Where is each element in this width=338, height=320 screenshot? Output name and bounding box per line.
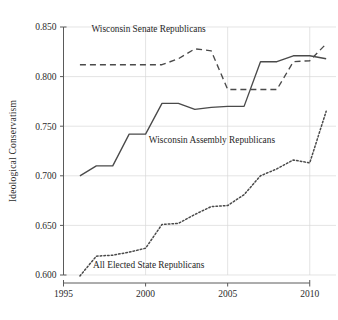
x-tick-label: 2005 [218, 289, 237, 299]
axis-spines [64, 27, 310, 283]
x-tick-label: 2010 [300, 289, 319, 299]
series-annotation: Wisconsin Assembly Republicans [149, 135, 276, 145]
y-axis-title: Ideological Conservatism [8, 100, 18, 203]
x-tick-label: 1995 [54, 289, 73, 299]
series-annotation: Wisconsin Senate Republicans [91, 24, 206, 34]
y-axis-spine [64, 27, 67, 275]
y-axis-tick-labels: 0.6000.6500.7000.7500.8000.850 [35, 22, 57, 280]
series-annotation: All Elected State Republicans [93, 260, 205, 270]
series-line-wisconsin-senate-republicans [80, 44, 326, 90]
y-tick-label: 0.850 [35, 22, 57, 32]
y-axis-tickmarks [60, 27, 64, 275]
series-annotations: Wisconsin Senate RepublicansWisconsin As… [91, 24, 275, 270]
x-axis-spine [64, 280, 310, 283]
y-tick-label: 0.800 [35, 72, 57, 82]
data-series-group [80, 44, 326, 276]
x-tick-label: 2000 [136, 289, 155, 299]
series-line-wisconsin-assembly-republicans [80, 56, 326, 176]
line-chart: 0.6000.6500.7000.7500.8000.850 199520002… [0, 0, 338, 320]
x-axis-tickmarks [64, 283, 310, 287]
chart-figure: 0.6000.6500.7000.7500.8000.850 199520002… [0, 0, 338, 320]
x-axis-tick-labels: 1995200020052010 [54, 289, 319, 299]
y-tick-label: 0.750 [35, 122, 57, 132]
y-tick-label: 0.600 [35, 270, 57, 280]
y-tick-label: 0.700 [35, 171, 57, 181]
y-tick-label: 0.650 [35, 221, 57, 231]
